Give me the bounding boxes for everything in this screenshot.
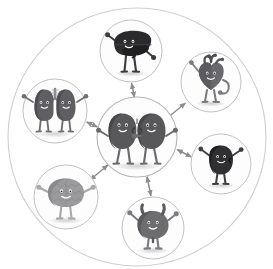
- node-bladder[interactable]: [122, 197, 184, 259]
- kidney-right-fist: [132, 133, 137, 138]
- heart-hand-left: [189, 60, 194, 65]
- spleen-hand-right: [239, 147, 244, 152]
- node-liver[interactable]: [100, 20, 162, 82]
- liver-hand-right: [151, 55, 156, 60]
- bladder-texture: [138, 211, 169, 239]
- node-spleen[interactable]: [191, 134, 251, 194]
- organ-crosstalk-figure: [0, 0, 273, 269]
- node-kidneys-hub[interactable]: [96, 97, 178, 177]
- spleen-shadow: [206, 182, 237, 189]
- lung-left-texture: [35, 90, 54, 122]
- liver-fissure: [116, 44, 152, 45]
- lung-right-texture: [57, 90, 76, 122]
- lung-left-hand: [22, 94, 27, 99]
- heart-shadow: [195, 100, 228, 107]
- diagram-canvas: Kidneys Liver Heart Spleen Bladder Brain…: [0, 0, 273, 269]
- kidney-left-hand: [96, 128, 101, 133]
- node-brain[interactable]: [34, 165, 98, 229]
- liver-shadow: [113, 70, 149, 77]
- kidney-right-hand: [173, 128, 178, 133]
- bladder-shadow: [136, 247, 170, 254]
- heart-hand-right: [218, 90, 223, 95]
- spleen-hand-left: [198, 147, 203, 152]
- lung-right-hand: [84, 94, 89, 99]
- bladder-hand-right: [174, 211, 179, 216]
- liver-hand-left: [105, 32, 110, 37]
- node-lungs[interactable]: [22, 79, 89, 143]
- brain-hand-right: [91, 185, 96, 190]
- brain-hand-left: [36, 185, 41, 190]
- node-heart[interactable]: [181, 52, 241, 112]
- brain-shadow: [48, 217, 84, 224]
- bladder-hand-left: [127, 210, 132, 215]
